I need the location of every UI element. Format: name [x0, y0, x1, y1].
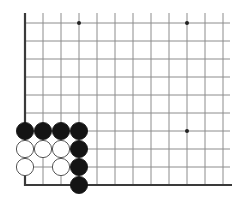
black-stone: [16, 122, 33, 139]
black-stone: [70, 158, 87, 175]
star-point-icon: [77, 21, 81, 25]
go-board: [0, 0, 247, 208]
black-stone: [70, 140, 87, 157]
white-stone: [52, 158, 69, 175]
stones: [16, 122, 87, 193]
black-stone: [70, 176, 87, 193]
white-stone: [52, 140, 69, 157]
black-stone: [52, 122, 69, 139]
white-stone: [16, 158, 33, 175]
star-point-icon: [185, 129, 189, 133]
star-point-icon: [185, 21, 189, 25]
white-stone: [16, 140, 33, 157]
black-stone: [70, 122, 87, 139]
white-stone: [34, 140, 51, 157]
black-stone: [34, 122, 51, 139]
